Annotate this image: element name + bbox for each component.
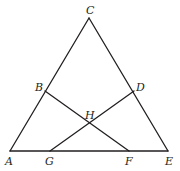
label-A: A — [4, 155, 13, 168]
label-E: E — [164, 155, 173, 168]
triangle-diagram: C B D H A G F E — [0, 0, 180, 171]
label-F: F — [124, 155, 133, 168]
label-D: D — [135, 81, 145, 94]
label-G: G — [45, 155, 54, 168]
label-C: C — [86, 4, 95, 17]
label-H: H — [84, 109, 95, 122]
label-B: B — [34, 81, 43, 94]
